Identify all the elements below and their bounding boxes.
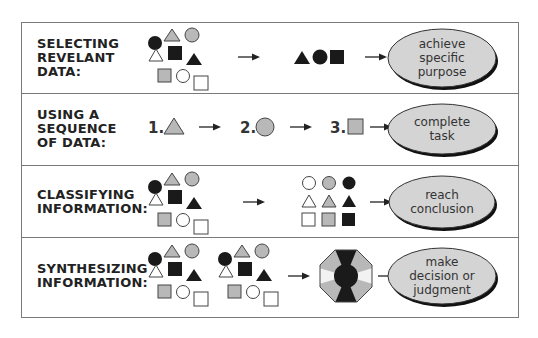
outcome-text: task bbox=[429, 129, 454, 143]
outcome-text: achieve bbox=[419, 37, 466, 51]
black-circle-icon bbox=[148, 252, 162, 266]
white-circle-icon bbox=[177, 70, 190, 83]
gray-square-icon bbox=[228, 285, 241, 298]
gray-square-icon bbox=[158, 285, 171, 298]
black-circle-icon bbox=[148, 36, 162, 50]
arrow-icon bbox=[243, 199, 265, 206]
black-square-icon bbox=[330, 50, 344, 64]
white-square-icon bbox=[194, 76, 208, 90]
white-square-icon bbox=[194, 292, 208, 306]
row-selecting-relevant-data: SELECTING REVELANT DATA: bbox=[22, 23, 518, 93]
gray-triangle-icon bbox=[234, 245, 250, 257]
black-circle-icon bbox=[313, 50, 328, 65]
gray-triangle-icon bbox=[164, 173, 180, 185]
black-triangle-icon bbox=[186, 197, 202, 209]
black-square-icon bbox=[168, 262, 182, 276]
scattered-shapes bbox=[148, 244, 208, 306]
gray-square-icon bbox=[158, 213, 171, 226]
outcome-text: reach bbox=[425, 188, 459, 202]
diagram-frame: SELECTING REVELANT DATA: bbox=[21, 22, 519, 318]
step-number: 3. bbox=[330, 119, 346, 137]
outcome-text: complete bbox=[414, 115, 470, 129]
white-triangle-icon bbox=[219, 265, 233, 277]
row-using-sequence-of-data: USING A SEQUENCE OF DATA: 1. 2. 3. bbox=[22, 93, 518, 165]
row-classifying-information: CLASSIFYING INFORMATION: bbox=[22, 165, 518, 237]
outcome-text: judgment bbox=[412, 283, 471, 297]
arrow-icon bbox=[365, 54, 387, 61]
gray-triangle-icon bbox=[164, 245, 180, 257]
white-circle-icon bbox=[303, 177, 316, 190]
step-number: 1. bbox=[148, 119, 164, 137]
black-triangle-icon bbox=[186, 53, 202, 65]
black-triangle-icon bbox=[294, 51, 310, 64]
scattered-shapes bbox=[148, 172, 208, 234]
gray-circle-icon bbox=[185, 244, 199, 258]
white-square-icon bbox=[264, 292, 278, 306]
arrow-icon bbox=[288, 273, 310, 280]
white-triangle-icon bbox=[149, 193, 163, 205]
gray-circle-icon bbox=[255, 244, 269, 258]
gray-triangle-icon bbox=[164, 118, 184, 134]
row-graphics: reach conclusion bbox=[22, 166, 520, 238]
white-circle-icon bbox=[177, 214, 190, 227]
black-triangle-icon bbox=[186, 269, 202, 281]
black-circle-icon bbox=[343, 177, 356, 190]
white-circle-icon bbox=[177, 286, 190, 299]
scattered-shapes bbox=[148, 28, 208, 90]
outcome-text: specific bbox=[419, 51, 464, 65]
row-graphics: 1. 2. 3. complete task bbox=[22, 94, 520, 166]
outcome-text: conclusion bbox=[410, 202, 474, 216]
outcome-oval: make decision or judgment bbox=[388, 248, 498, 307]
black-circle-icon bbox=[218, 252, 232, 266]
gray-circle-icon bbox=[256, 118, 274, 136]
arrow-icon bbox=[238, 54, 260, 61]
white-triangle-icon bbox=[302, 195, 316, 207]
arrow-icon bbox=[290, 124, 312, 131]
selected-shapes bbox=[294, 50, 344, 65]
outcome-text: decision or bbox=[409, 269, 475, 283]
black-square-icon bbox=[168, 190, 182, 204]
black-square-icon bbox=[168, 46, 182, 60]
outcome-oval: reach conclusion bbox=[389, 176, 497, 231]
gray-circle-icon bbox=[185, 28, 199, 42]
outcome-text: purpose bbox=[418, 65, 467, 79]
step-number: 2. bbox=[240, 119, 256, 137]
white-square-icon bbox=[194, 220, 208, 234]
gray-square-icon bbox=[322, 213, 335, 226]
row-graphics: make decision or judgment bbox=[22, 238, 520, 319]
gray-triangle-icon bbox=[164, 29, 180, 41]
black-square-icon bbox=[238, 262, 252, 276]
outcome-text: make bbox=[426, 255, 459, 269]
gray-triangle-icon bbox=[322, 195, 336, 207]
classified-grid bbox=[302, 177, 356, 227]
black-triangle-icon bbox=[256, 269, 272, 281]
synthesis-octagon-icon bbox=[319, 249, 373, 303]
outcome-oval: complete task bbox=[388, 104, 498, 157]
white-square-icon bbox=[302, 213, 315, 226]
white-circle-icon bbox=[247, 286, 260, 299]
scattered-shapes bbox=[218, 244, 278, 306]
arrow-icon bbox=[199, 124, 221, 131]
black-triangle-icon bbox=[342, 195, 356, 207]
gray-square-icon bbox=[158, 69, 171, 82]
row-synthesizing-information: SYNTHESIZING INFORMATION: bbox=[22, 237, 518, 318]
gray-square-icon bbox=[348, 119, 363, 134]
black-circle-icon bbox=[148, 180, 162, 194]
gray-circle-icon bbox=[185, 172, 199, 186]
white-triangle-icon bbox=[149, 49, 163, 61]
gray-circle-icon bbox=[323, 177, 336, 190]
outcome-oval: achieve specific purpose bbox=[388, 29, 498, 90]
row-graphics: achieve specific purpose bbox=[22, 23, 520, 93]
black-square-icon bbox=[342, 213, 355, 226]
white-triangle-icon bbox=[149, 265, 163, 277]
